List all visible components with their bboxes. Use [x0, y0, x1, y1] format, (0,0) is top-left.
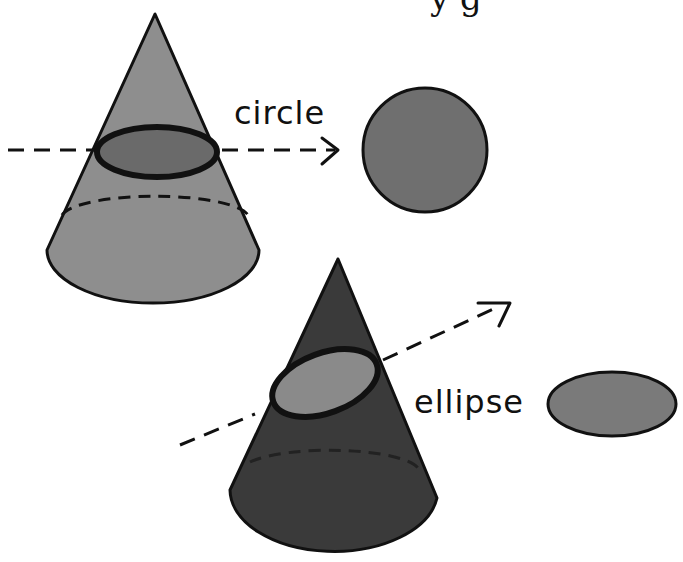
result-ellipse-shape — [548, 372, 676, 436]
light-cone — [47, 14, 259, 303]
circle-cross-section — [97, 127, 217, 177]
cropped-top-text: y g — [430, 0, 482, 18]
circle-label: circle — [234, 94, 325, 132]
result-circle-shape — [363, 88, 487, 212]
conic-sections-diagram: y g circle ellipse — [0, 0, 683, 562]
diagram-canvas — [0, 0, 683, 562]
ellipse-label: ellipse — [414, 383, 524, 421]
dark-cone — [230, 259, 437, 551]
